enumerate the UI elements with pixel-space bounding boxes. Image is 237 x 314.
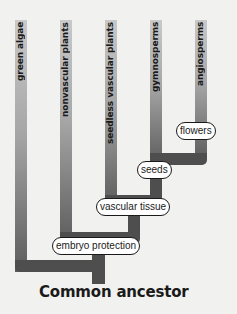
trait-vascular-tissue: vascular tissue (96, 198, 170, 216)
label-nonvascular-plants: nonvascular plants (60, 22, 72, 142)
trait-embryo-protection: embryo protection (52, 237, 140, 255)
label-green-algae: green algae (15, 22, 27, 110)
trait-seeds: seeds (137, 161, 172, 179)
label-gymnosperms: gymnosperms (150, 22, 162, 102)
trait-flowers: flowers (176, 122, 216, 140)
label-angiosperms: angiosperms (195, 22, 207, 94)
label-seedless-vascular-plants: seedless vascular plants (105, 22, 117, 172)
root-label: Common ancestor (39, 283, 188, 301)
root-trunk (92, 262, 105, 284)
